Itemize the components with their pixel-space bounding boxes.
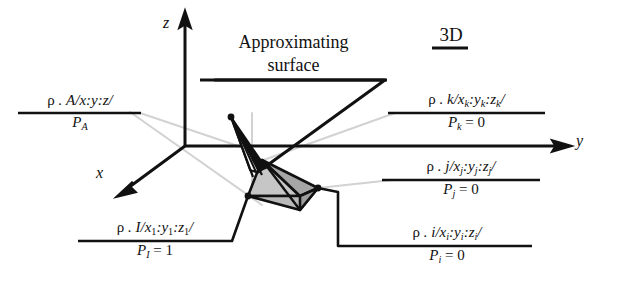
- formula-label-A: ρ . A/x:y:z/: [18, 92, 142, 110]
- formula-k-var-y: y: [474, 91, 481, 107]
- approximating-surface-caption: Approximating surface: [200, 32, 387, 76]
- formula-label-k: ρ . k/xk:yk:zk/: [388, 92, 545, 110]
- formula-I-den-P: P: [137, 242, 146, 258]
- vertex-dot-top-spike: [228, 114, 235, 121]
- approximating-caption-line2: surface: [200, 54, 387, 76]
- formula-j-den-rest: = 0: [455, 181, 478, 197]
- formula-A-numerator: ρ . A/x:y:z/: [18, 93, 142, 110]
- figure-canvas: z x y Approximating surface 3D ρ . A/x:y…: [0, 0, 618, 286]
- formula-k-sub-z: k: [496, 98, 501, 109]
- formula-label-j-denominator: Pj = 0: [382, 182, 540, 200]
- formula-label-A-denominator: PA: [18, 115, 142, 133]
- axis-z-arrowhead: [180, 12, 190, 27]
- formula-k-sub-y: k: [481, 98, 486, 109]
- formula-I-numerator-rest: . I/x: [124, 219, 151, 235]
- leader-line-j: [318, 180, 392, 188]
- leader-line-i: [318, 188, 362, 246]
- axis-label-y: y: [576, 132, 583, 150]
- formula-j-sub-x: j: [460, 165, 463, 176]
- axis-x-arrowhead: [118, 182, 135, 196]
- formula-j-numerator-rest: . j/x: [434, 158, 460, 174]
- formula-i-sub-y: i: [461, 231, 464, 242]
- formula-j-rho: ρ: [427, 158, 435, 174]
- formula-i-var-y: y: [454, 224, 461, 240]
- formula-A-rho: ρ: [47, 92, 55, 108]
- formula-label-i: ρ . i/xi:yi:zi/: [362, 225, 532, 243]
- approximating-caption-line1: Approximating: [200, 32, 387, 54]
- formula-A-den-sub: A: [81, 121, 87, 132]
- formula-I-sub-x: 1: [151, 226, 156, 237]
- three-d-caption-label: 3D: [430, 24, 472, 47]
- formula-i-sub-x: i: [446, 231, 449, 242]
- formula-I-sub-y: 1: [168, 226, 173, 237]
- formula-k-den-P: P: [448, 114, 457, 130]
- formula-j-var-y: y: [468, 158, 475, 174]
- axis-label-x: x: [96, 164, 103, 182]
- formula-label-I: ρ . I/x1:y1:z1/: [78, 220, 232, 238]
- formula-i-rho: ρ: [413, 224, 421, 240]
- formula-i-numerator-rest: . i/x: [420, 224, 446, 240]
- formula-I-sub-z: 1: [184, 226, 189, 237]
- formula-i-den-rest: = 0: [441, 247, 464, 263]
- formula-label-I-denominator: PI = 1: [78, 243, 232, 261]
- formula-k-rho: ρ: [428, 91, 436, 107]
- vertex-dot-right: [315, 185, 322, 192]
- formula-label-k-denominator: Pk = 0: [388, 115, 545, 133]
- vertex-dot-bottom-left: [245, 193, 252, 200]
- axis-y-arrowhead: [553, 141, 570, 151]
- formula-j-sub-z: j: [488, 165, 491, 176]
- formula-label-i-denominator: Pi = 0: [362, 248, 532, 266]
- formula-A-numerator-rest: . A/x:y:z/: [55, 92, 113, 108]
- leader-line-diagonal: [130, 112, 262, 205]
- formula-k-numerator-rest: . k/x: [436, 91, 465, 107]
- leader-line-k: [258, 113, 395, 162]
- three-d-caption: 3D: [430, 24, 472, 47]
- formula-label-j: ρ . j/xj:yj:zj/: [382, 159, 540, 177]
- formula-I-den-rest: = 1: [150, 242, 173, 258]
- formula-k-sub-x: k: [464, 98, 469, 109]
- axis-x-line: [128, 146, 185, 188]
- formula-i-sub-z: i: [474, 231, 477, 242]
- formula-k-den-rest: = 0: [462, 114, 485, 130]
- axis-label-z: z: [163, 14, 169, 32]
- formula-j-sub-y: j: [475, 165, 478, 176]
